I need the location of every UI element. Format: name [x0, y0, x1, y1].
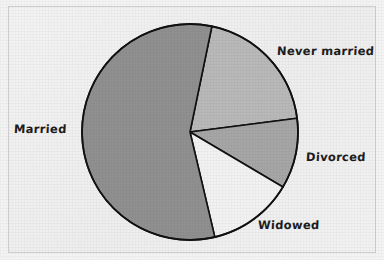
pie-slice-group: [82, 24, 298, 240]
pie-label-married: Married: [14, 122, 67, 136]
pie-label-never-married: Never married: [277, 44, 375, 58]
pie-label-widowed: Widowed: [258, 218, 320, 232]
pie-chart-figure: Never married Divorced Widowed Married: [0, 0, 384, 260]
pie-label-divorced: Divorced: [306, 150, 367, 164]
